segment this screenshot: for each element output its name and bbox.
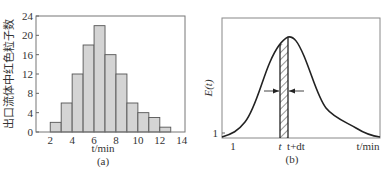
x-tick-t: t [278,140,282,152]
e-t-curve [222,37,380,137]
y-tick-label: 8 [28,87,34,99]
x-tick-1: 1 [230,140,236,152]
x-tick-label: 4 [69,134,75,146]
histogram-bar [160,127,171,132]
x-tick-label: 10 [132,134,144,146]
right-arrow-head [289,89,295,94]
y-tick-label: 24 [22,10,34,22]
x-tick-label: 2 [47,134,53,146]
y-axis-label-a: 出口流体中红色粒子数 [2,19,16,129]
figure: 048121620242468101214t/min(a)出口流体中红色粒子数 … [0,0,388,174]
histogram-bar [138,113,149,132]
y-tick-label: 4 [28,107,34,119]
y-tick-label: 20 [22,29,34,41]
histogram-panel: 048121620242468101214t/min(a)出口流体中红色粒子数 [2,10,188,168]
rtd-curve-panel: 1 1 t t+dt t/min E(t) (b) [202,18,380,166]
y-tick-1: 1 [213,127,219,139]
histogram-bar [50,122,61,132]
histogram-bar [83,45,94,132]
panel-label-a: (a) [97,155,110,168]
histogram-bar [94,26,105,132]
y-tick-label: 0 [28,126,34,138]
histogram-bar [72,74,83,132]
histogram-bar [127,103,138,132]
panel-label-b: (b) [286,153,299,166]
x-tick-label: 12 [154,134,165,146]
y-tick-label: 12 [22,68,33,80]
y-tick-label: 16 [22,49,34,61]
x-axis-label-a: t/min [91,142,115,154]
y-axis-label-b: E(t) [202,79,215,97]
histogram-bar [61,103,72,132]
histogram-bar [149,118,160,133]
x-tick-t-dt: t+dt [287,140,305,152]
x-axis-label-b: t/min [356,140,380,152]
histogram-bar [105,55,116,132]
histogram-bar [116,74,127,132]
x-tick-label: 14 [176,134,188,146]
hatched-strip [280,44,288,138]
left-arrow-head [273,89,279,94]
